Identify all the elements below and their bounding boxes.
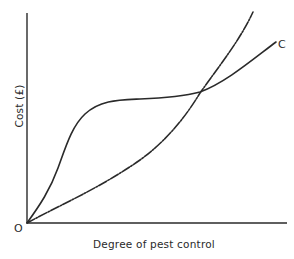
curve-convex bbox=[27, 12, 253, 223]
curve-c-label: C bbox=[278, 38, 286, 51]
cost-chart bbox=[0, 0, 294, 259]
y-axis-label: Cost (£) bbox=[13, 81, 25, 131]
origin-label: O bbox=[14, 222, 23, 235]
x-axis-label: Degree of pest control bbox=[0, 238, 294, 250]
curve-c bbox=[27, 42, 276, 223]
